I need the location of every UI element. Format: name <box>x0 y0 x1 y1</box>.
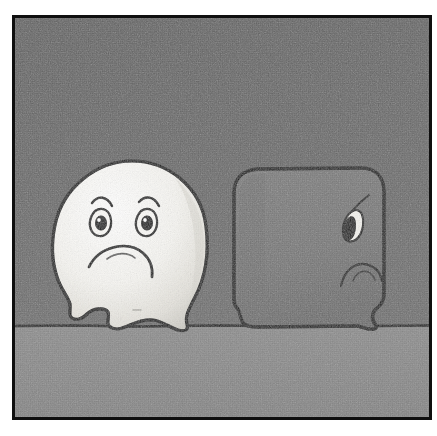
white-blob-character <box>53 161 208 331</box>
white-blob-pupil-left <box>95 216 107 231</box>
illustration-stage: Two cartoon blob characters with sad fac… <box>0 0 437 436</box>
ground-plane <box>15 325 429 417</box>
dark-square-inner-shade <box>239 174 265 321</box>
white-blob-eye-left <box>90 209 111 236</box>
white-blob-pupil-right <box>141 216 153 231</box>
white-blob-eye-highlight-right <box>143 218 147 222</box>
scene-artwork <box>15 18 429 417</box>
white-blob-eye-highlight-left <box>97 218 101 222</box>
dark-square-character <box>234 168 384 329</box>
white-blob-eye-right <box>136 209 157 236</box>
comic-panel <box>12 15 432 420</box>
